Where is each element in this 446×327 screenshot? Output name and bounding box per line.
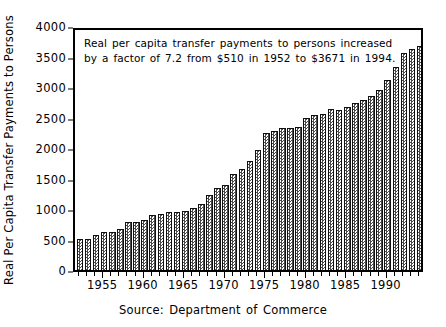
bar [93,235,100,270]
bar [77,239,84,270]
x-tick-label: 1965 [168,280,198,292]
bar [141,220,148,270]
x-tick-label: 1980 [289,280,319,292]
x-tick-label: 1990 [370,280,400,292]
x-tick-minor [118,272,119,276]
y-tick-mark [68,241,73,242]
x-tick-minor [232,272,233,276]
y-tick-mark [68,58,73,59]
x-tick-minor [289,272,290,276]
bar [182,211,189,270]
y-tick-mark [68,28,73,29]
y-tick-mark [68,89,73,90]
bar [344,107,351,270]
x-tick-minor [135,272,136,276]
x-tick-minor [313,272,314,276]
bar [198,204,205,270]
x-tick-label: 1960 [127,280,157,292]
y-tick-mark [68,211,73,212]
y-tick-label: 3500 [22,53,66,65]
bar [417,46,421,270]
bar [263,133,270,270]
bar [101,232,108,270]
bar [158,214,165,270]
chart-container: Real Per Capita Transfer Payments to Per… [0,0,446,327]
x-tick-minor [126,272,127,276]
y-tick-mark [68,180,73,181]
bar [133,222,140,270]
x-tick-minor [297,272,298,276]
bar [303,118,310,271]
bar [409,49,416,270]
x-tick-minor [110,272,111,276]
bar [328,109,335,270]
x-tick-minor [191,272,192,276]
x-tick-minor [248,272,249,276]
x-tick-minor [410,272,411,276]
x-tick-minor [86,272,87,276]
bar [109,232,116,270]
bar [190,208,197,270]
x-tick-minor [151,272,152,276]
x-tick-minor [78,272,79,276]
x-tick-minor [353,272,354,276]
bar [255,150,262,270]
y-tick-label: 500 [22,236,66,248]
x-tick-label: 1975 [249,280,279,292]
y-tick-mark [68,272,73,273]
y-tick-mark [68,119,73,120]
bar [311,115,318,270]
x-tick-minor [418,272,419,276]
x-tick-minor [240,272,241,276]
x-tick-minor [167,272,168,276]
y-axis-tick-labels: 05001000150020002500300035004000 [18,0,66,327]
bar [85,239,92,270]
bar [247,161,254,270]
x-tick-minor [175,272,176,276]
x-tick-minor [402,272,403,276]
x-tick-minor [394,272,395,276]
y-tick-label: 1000 [22,205,66,217]
x-tick-minor [207,272,208,276]
source-caption: Source: Department of Commerce [0,303,446,317]
x-tick-minor [256,272,257,276]
y-axis-title-label: Real Per Capita Transfer Payments to Per… [2,15,16,285]
x-tick-label: 1955 [87,280,117,292]
x-tick-minor [337,272,338,276]
bar [166,212,173,270]
annotation-line-2: by a factor of 7.2 from $510 in 1952 to … [84,51,402,66]
y-tick-label: 4000 [22,22,66,34]
y-tick-mark [68,150,73,151]
x-tick-minor [361,272,362,276]
bar [214,188,221,270]
x-tick-label: 1970 [208,280,238,292]
bar [222,185,229,270]
chart-annotation: Real per capita transfer payments to per… [84,36,402,66]
y-tick-label: 2500 [22,114,66,126]
x-tick-minor [378,272,379,276]
x-tick-minor [272,272,273,276]
bar [287,128,294,270]
bar [279,128,286,270]
x-tick-minor [329,272,330,276]
bar [352,103,359,270]
bar [360,100,367,270]
bar [295,127,302,270]
y-axis-title: Real Per Capita Transfer Payments to Per… [0,0,18,300]
bar [320,114,327,270]
bar [384,80,391,270]
x-tick-minor [159,272,160,276]
bar [125,222,132,270]
bar [174,212,181,270]
x-tick-minor [199,272,200,276]
bar [336,110,343,270]
bar [149,215,156,271]
y-tick-label: 1500 [22,175,66,187]
bar [206,195,213,270]
bar [230,174,237,270]
bar [401,53,408,270]
bar [376,90,383,270]
bar [117,229,124,270]
y-tick-label: 0 [22,266,66,278]
x-tick-minor [280,272,281,276]
